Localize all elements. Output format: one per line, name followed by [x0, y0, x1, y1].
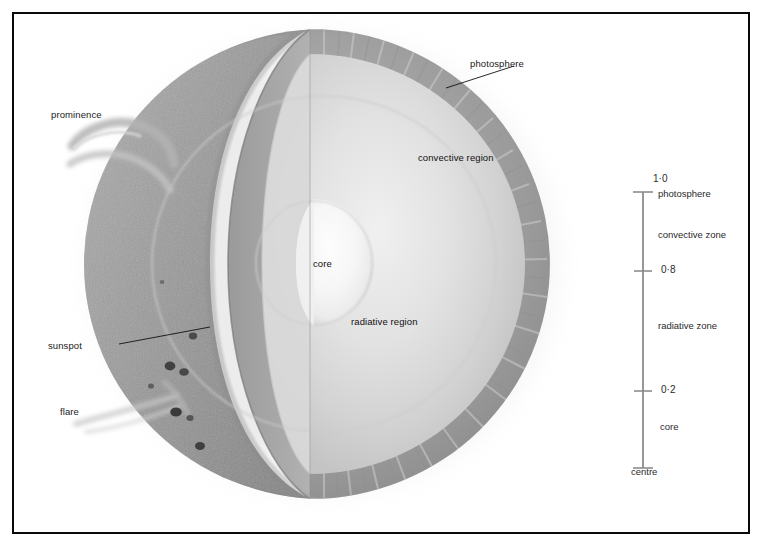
label-radiative-region: radiative region	[351, 316, 418, 327]
label-prominence: prominence	[51, 109, 102, 120]
label-sunspot: sunspot	[48, 340, 82, 351]
scale-label-convective-zone: convective zone	[658, 229, 726, 240]
label-convective-region: convective region	[418, 152, 494, 163]
figure-root: photosphere prominence convective region…	[0, 0, 768, 550]
label-core: core	[313, 258, 332, 269]
scale-label-photosphere: photosphere	[658, 188, 711, 199]
scale-value-0-2: 0·2	[661, 384, 675, 395]
scale-label-core: core	[660, 421, 678, 432]
scale-value-0-8: 0·8	[661, 264, 675, 275]
scale-value-1-0: 1·0	[653, 173, 667, 184]
scale-label-centre: centre	[631, 466, 657, 477]
label-photosphere: photosphere	[470, 58, 524, 69]
label-flare: flare	[60, 406, 79, 417]
scale-label-radiative-zone: radiative zone	[658, 320, 717, 331]
